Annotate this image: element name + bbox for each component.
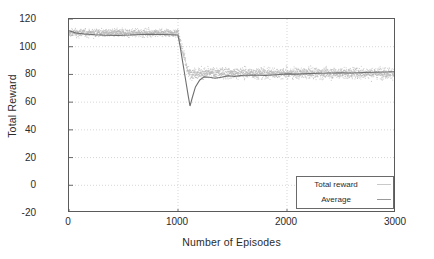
x-axis-title: Number of Episodes — [68, 236, 395, 248]
legend-swatch-total-reward — [377, 184, 391, 185]
x-axis-title-text: Number of Episodes — [182, 236, 281, 248]
legend-item-average: Average — [297, 192, 393, 207]
x-tick-label: 3000 — [365, 216, 425, 227]
y-tick-label: 120 — [0, 13, 36, 24]
average-line — [69, 31, 395, 106]
legend-item-total-reward: Total reward — [297, 177, 393, 192]
legend-label-average: Average — [297, 195, 375, 204]
y-tick-label: 80 — [0, 68, 36, 79]
y-tick-label: -20 — [0, 207, 36, 218]
x-tick-label: 2000 — [256, 216, 316, 227]
legend-swatch-average — [377, 199, 391, 200]
chart-figure: Total Reward -20020406080100120 01000200… — [0, 0, 434, 259]
y-tick-label: 0 — [0, 179, 36, 190]
y-tick-label: 60 — [0, 96, 36, 107]
x-tick-label: 1000 — [147, 216, 207, 227]
x-tick-label: 0 — [38, 216, 98, 227]
legend: Total reward Average — [296, 176, 394, 209]
y-tick-label: 20 — [0, 151, 36, 162]
y-tick-label: 100 — [0, 40, 36, 51]
y-tick-label: 40 — [0, 123, 36, 134]
legend-label-total-reward: Total reward — [297, 180, 375, 189]
